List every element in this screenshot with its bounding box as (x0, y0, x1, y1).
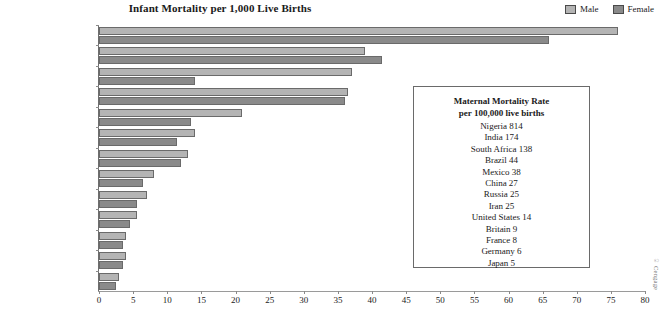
y-axis-tick (96, 25, 99, 26)
x-axis-tick (440, 291, 441, 294)
bar-male-russia (99, 170, 154, 178)
chart-legend: Male Female (565, 4, 654, 14)
x-axis-tick-label: 20 (224, 295, 248, 305)
bar-female-brazil (99, 118, 191, 126)
bar-male-japan (99, 273, 119, 281)
x-axis-tick-label: 40 (360, 295, 384, 305)
bar-group: Nigeria (99, 25, 645, 45)
inset-heading-line2: per 100,000 live births (459, 107, 544, 119)
bar-female-japan (99, 282, 116, 290)
chart-title: Infant Mortality per 1,000 Live Births (0, 2, 440, 14)
x-axis-tick-label: 65 (531, 295, 555, 305)
x-axis-tick-label: 45 (394, 295, 418, 305)
x-axis-tick (509, 291, 510, 294)
bar-female-france (99, 261, 123, 269)
inset-row: India 174 (471, 132, 533, 143)
copyright-credit: © Cengage (653, 257, 660, 290)
bar-male-britain (99, 211, 137, 219)
bar-female-nigeria (99, 36, 549, 44)
y-axis-tick (96, 168, 99, 169)
bar-male-south-africa (99, 88, 348, 96)
bar-male-brazil (99, 109, 242, 117)
y-axis-tick (96, 271, 99, 272)
x-axis-tick (474, 291, 475, 294)
x-axis-tick-label: 15 (189, 295, 213, 305)
y-axis-tick (96, 86, 99, 87)
bar-male-china (99, 150, 188, 158)
inset-row: Mexico 38 (471, 167, 533, 178)
x-axis-tick-label: 50 (428, 295, 452, 305)
x-axis-tick (338, 291, 339, 294)
x-axis-tick-label: 70 (565, 295, 589, 305)
x-axis-tick-label: 75 (599, 295, 623, 305)
bar-female-germany (99, 241, 123, 249)
bar-female-india (99, 56, 382, 64)
y-axis-tick (96, 66, 99, 67)
x-axis-tick-label: 60 (497, 295, 521, 305)
y-axis-tick (96, 45, 99, 46)
inset-row: Japan 5 (471, 258, 533, 269)
x-axis-tick-label: 80 (633, 295, 657, 305)
bar-male-nigeria (99, 27, 618, 35)
x-axis-tick (99, 291, 100, 294)
x-axis-tick (236, 291, 237, 294)
x-axis-tick (645, 291, 646, 294)
legend-swatch-female-icon (613, 5, 624, 14)
bar-male-germany (99, 232, 126, 240)
x-axis-tick (167, 291, 168, 294)
y-axis-tick (96, 148, 99, 149)
bar-male-united-states (99, 191, 147, 199)
y-axis-tick (96, 230, 99, 231)
y-axis-tick (96, 127, 99, 128)
inset-row: Britain 9 (471, 224, 533, 235)
x-axis-tick-label: 30 (292, 295, 316, 305)
x-axis-tick (372, 291, 373, 294)
bar-male-france (99, 252, 126, 260)
inset-row: Germany 6 (471, 246, 533, 257)
x-axis-tick (304, 291, 305, 294)
x-axis-tick (133, 291, 134, 294)
inset-row: Nigeria 814 (471, 121, 533, 132)
bar-female-britain (99, 220, 130, 228)
chart-container: Infant Mortality per 1,000 Live Births M… (0, 0, 662, 316)
inset-row: China 27 (471, 178, 533, 189)
bar-female-south-africa (99, 97, 345, 105)
x-axis-tick (611, 291, 612, 294)
legend-swatch-male-icon (565, 5, 576, 14)
inset-row: United States 14 (471, 212, 533, 223)
bar-female-china (99, 159, 181, 167)
x-axis-tick (577, 291, 578, 294)
y-axis-tick (96, 250, 99, 251)
bar-female-united-states (99, 200, 137, 208)
y-axis-tick (96, 189, 99, 190)
legend-item-male: Male (565, 4, 599, 14)
inset-heading-line1: Maternal Mortality Rate (454, 95, 549, 107)
maternal-mortality-inset: Maternal Mortality Rate per 100,000 live… (413, 86, 590, 268)
bar-female-iran (99, 77, 195, 85)
bar-group: Japan (99, 271, 645, 291)
inset-row: Iran 25 (471, 201, 533, 212)
y-axis-tick (96, 209, 99, 210)
bar-male-mexico (99, 129, 195, 137)
bar-male-india (99, 47, 365, 55)
x-axis-tick-label: 55 (462, 295, 486, 305)
x-axis-tick (543, 291, 544, 294)
x-axis-tick-label: 25 (258, 295, 282, 305)
bar-female-mexico (99, 138, 177, 146)
inset-row: South Africa 138 (471, 144, 533, 155)
x-axis-tick-label: 5 (121, 295, 145, 305)
x-axis-tick (270, 291, 271, 294)
bar-male-iran (99, 68, 352, 76)
bar-group: Iran (99, 66, 645, 86)
x-axis-tick-label: 35 (326, 295, 350, 305)
inset-row: France 8 (471, 235, 533, 246)
inset-row: Russia 25 (471, 189, 533, 200)
x-axis-tick (201, 291, 202, 294)
legend-label-male: Male (580, 4, 599, 14)
x-axis-tick-label: 10 (155, 295, 179, 305)
inset-row: Brazil 44 (471, 155, 533, 166)
y-axis-tick (96, 107, 99, 108)
x-axis-tick-label: 0 (87, 295, 111, 305)
x-axis-tick (406, 291, 407, 294)
legend-item-female: Female (613, 4, 655, 14)
